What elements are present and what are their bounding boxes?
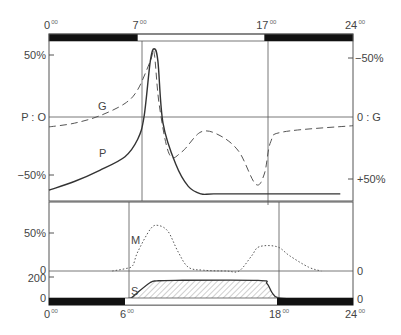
left-label-zero: P : O: [21, 111, 46, 123]
curve-P: [49, 49, 340, 195]
hour-label: 0: [44, 308, 50, 320]
hour-label: 24: [345, 308, 357, 320]
top-day-night-bar: [49, 34, 353, 41]
hour-label-sup: 00: [282, 308, 289, 314]
top-hour-labels: 00070017002400: [44, 19, 366, 31]
hour-label-sup: 00: [358, 308, 365, 314]
hour-label-sup: 00: [51, 308, 58, 314]
diagram: 00070017002400 50% P : O −50% −50% 0 : G…: [0, 0, 401, 335]
hour-label-sup: 00: [270, 19, 277, 25]
curve-label-P: P: [99, 147, 106, 159]
hour-label-sup: 00: [140, 19, 147, 25]
dark-period: [264, 34, 353, 41]
bottom-hour-labels: 00060018002400: [44, 308, 366, 320]
dark-period: [49, 298, 125, 305]
curve-label-M: M: [131, 234, 140, 246]
hour-label: 7: [133, 19, 139, 31]
hour-label: 18: [269, 308, 281, 320]
lower-right-label-s-zero: 0: [357, 293, 363, 305]
lower-label-50: 50%: [24, 227, 46, 239]
curve-label-S: S: [131, 285, 138, 297]
lower-label-200: 200: [28, 272, 46, 284]
dark-period: [277, 298, 353, 305]
hour-label-sup: 00: [127, 308, 134, 314]
lower-label-s-zero: 0: [40, 292, 46, 304]
lower-right-label-m-zero: 0: [357, 265, 363, 277]
hour-label-sup: 00: [358, 19, 365, 25]
curve-G: [49, 50, 353, 185]
left-label-50: 50%: [24, 49, 46, 61]
hour-label: 0: [44, 19, 50, 31]
curve-label-G: G: [98, 100, 107, 112]
right-label-plus50: +50%: [357, 173, 386, 185]
hour-label-sup: 00: [51, 19, 58, 25]
left-label-minus50: −50%: [18, 169, 47, 181]
right-label-minus50: −50%: [355, 52, 384, 64]
dark-period: [49, 34, 138, 41]
curve-M: [112, 225, 321, 272]
right-label-zero: 0 : G: [357, 111, 381, 123]
hour-label: 24: [345, 19, 357, 31]
hour-label: 6: [120, 308, 126, 320]
hour-label: 17: [256, 19, 268, 31]
bottom-day-night-bar: [49, 298, 353, 305]
